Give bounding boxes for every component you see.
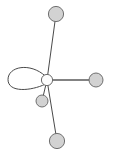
graph-node-center-hub[interactable] [41, 74, 52, 85]
graph-node-top[interactable] [48, 6, 63, 21]
graph-node-lower-inner[interactable] [36, 95, 48, 107]
graph-node-right[interactable] [89, 73, 103, 87]
graph-canvas [0, 0, 116, 154]
graph-figure [0, 0, 116, 154]
graph-node-bottom[interactable] [49, 133, 64, 148]
